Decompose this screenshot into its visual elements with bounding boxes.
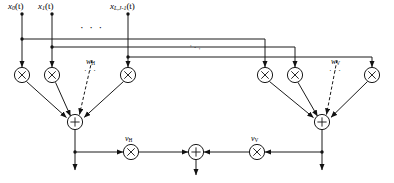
signal-flow-graph xyxy=(0,0,394,183)
left-multiplier-nodes xyxy=(14,67,135,82)
right-sum-input-arrows xyxy=(270,82,368,118)
input-drop-lines xyxy=(22,14,128,67)
bus-line-x0 xyxy=(22,39,265,67)
figure-canvas: x0(t) x1(t) xL,J-1(t) wH wV vH vV · · · … xyxy=(0,0,394,183)
gain-label-horizontal: vH xyxy=(125,135,132,143)
input-label-x0: x0(t) xyxy=(8,2,23,12)
input-label-xlj: xL,J-1(t) xyxy=(110,2,135,12)
input-label-xlj-text: xL,J-1(t) xyxy=(110,1,135,11)
ellipsis-left-weight-row: · · · xyxy=(84,67,96,75)
gain-label-vertical: vV xyxy=(251,135,258,143)
ellipsis-right-weight-row: · · · xyxy=(329,67,341,75)
bus-tap-dots xyxy=(20,12,129,58)
input-label-x1: x1(t) xyxy=(38,2,53,12)
left-multiplier-glyphs xyxy=(18,71,131,78)
right-multiplier-glyphs xyxy=(261,71,375,78)
input-label-x1-text: x1(t) xyxy=(38,1,53,11)
right-multiplier-nodes xyxy=(257,67,379,82)
left-sum-input-arrows xyxy=(27,82,124,118)
ellipsis-top-row: · · · xyxy=(80,22,104,33)
input-label-x0-text: x0(t) xyxy=(8,1,23,11)
